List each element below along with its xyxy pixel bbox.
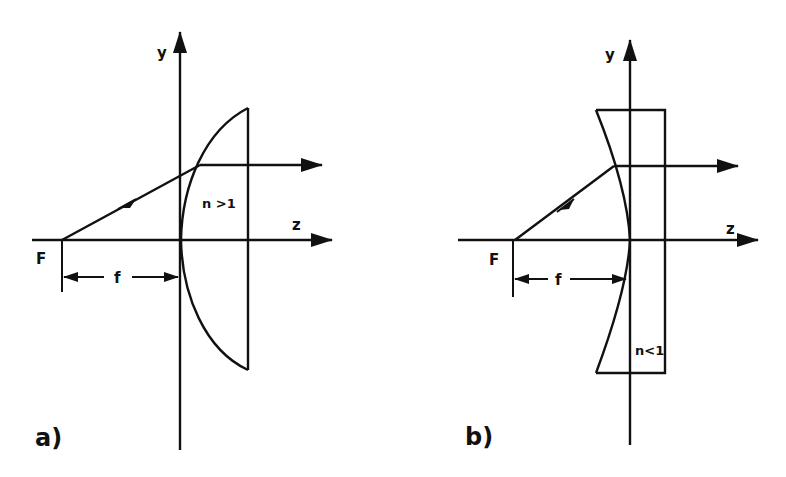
y-axis-label-b: y	[605, 46, 615, 64]
focus-label-a: F	[36, 250, 46, 268]
y-axis-label-a: y	[157, 44, 167, 62]
panel-b	[458, 40, 758, 445]
panel-label-b: b)	[465, 423, 493, 451]
panel-a	[32, 32, 332, 450]
focal-length-label-b: f	[555, 271, 562, 289]
lens-diagram: y z F f n >1 a) y z F f n<1 b)	[0, 0, 786, 477]
medium-label-a: n >1	[202, 196, 236, 211]
focal-length-label-a: f	[114, 269, 121, 287]
panel-label-a: a)	[35, 424, 62, 452]
z-axis-label-a: z	[292, 216, 301, 234]
focus-label-b: F	[489, 251, 499, 269]
incident-ray-b	[515, 166, 614, 240]
z-axis-label-b: z	[726, 220, 735, 238]
lens-curved-surface-b	[596, 110, 630, 373]
medium-label-b: n<1	[635, 343, 664, 358]
